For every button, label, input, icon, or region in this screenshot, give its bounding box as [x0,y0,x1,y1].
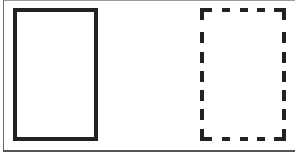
dashed-rectangle-outline [200,8,286,141]
frame-top-border [3,0,295,1]
diagram-canvas [0,0,295,154]
solid-rectangle [13,8,98,141]
frame-bottom-border [3,150,295,152]
frame-left-border [3,0,4,152]
dashed-rectangle [200,8,286,141]
